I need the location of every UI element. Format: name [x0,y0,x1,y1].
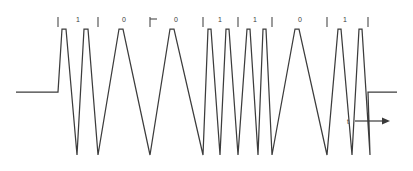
bit-label: 1 [253,16,257,23]
waveform-canvas: 1 0 0 1 1 0 1 t [0,0,413,171]
arrow-right-icon-head [382,118,390,125]
bit-boundary-ticks [58,17,368,27]
bit-label: 0 [174,16,178,23]
bit-label: 0 [122,16,126,23]
fsk-signal-trace [16,29,397,155]
bit-label: 1 [218,16,222,23]
time-axis-label: t [347,118,349,125]
fsk-waveform-figure: 1 0 0 1 1 0 1 t [0,0,413,171]
bit-label: 1 [343,16,347,23]
bit-label: 1 [76,16,80,23]
bit-label: 0 [298,16,302,23]
bit-labels: 1 0 0 1 1 0 1 [76,16,347,23]
